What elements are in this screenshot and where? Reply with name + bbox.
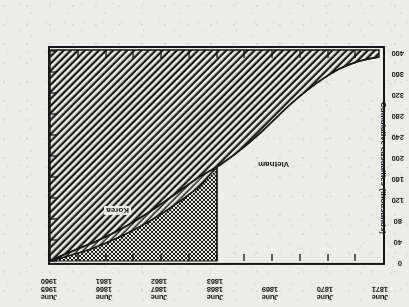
y-tick-label-200: 200 [391, 154, 404, 163]
x-tick-june-7: June [358, 293, 402, 301]
y-tick-label-240: 240 [391, 133, 404, 142]
series-label-vietnam: Vietnam [256, 160, 291, 169]
y-tick-label-400: 400 [391, 49, 404, 58]
x-tick-june-1: June [27, 293, 71, 301]
y-tick-label-0: 0 [398, 259, 402, 268]
x-tick-vietnam-year-3: 1867 [137, 285, 181, 293]
y-tick-label-40: 40 [394, 238, 402, 247]
x-tick-june-4: June [193, 293, 237, 301]
x-tick-label-group-3: June 1867 1862 [137, 276, 181, 301]
y-tick-label-80: 80 [394, 217, 402, 226]
plot-svg [50, 48, 383, 263]
x-tick-korea-year-4: 1863 [193, 276, 237, 284]
x-tick-label-group-1: June 1965 1960 [27, 276, 71, 301]
y-tick-label-360: 360 [391, 70, 404, 79]
x-tick-vietnam-year-6: 1870 [303, 285, 347, 293]
x-tick-label-group-7: June 1871 [358, 285, 402, 301]
x-tick-label-group-5: June 1869 [248, 285, 292, 301]
scanned-chart-page: Vietnam Korea June 1965 1960 June 1866 1… [0, 0, 409, 307]
x-tick-vietnam-year-5: 1869 [248, 285, 292, 293]
y-axis-title: Cumulative casualties (thousands) [379, 102, 388, 234]
x-tick-vietnam-year-4: 1868 [193, 285, 237, 293]
x-tick-vietnam-year-1: 1965 [27, 285, 71, 293]
x-tick-vietnam-year-7: 1871 [358, 285, 402, 293]
plot-area: Vietnam Korea [48, 46, 385, 265]
x-tick-label-group-4: June 1868 1863 [193, 276, 237, 301]
x-tick-label-group-2: June 1866 1861 [82, 276, 126, 301]
y-tick-label-120: 120 [391, 196, 404, 205]
x-tick-june-3: June [137, 293, 181, 301]
x-tick-korea-year-3: 1862 [137, 276, 181, 284]
y-tick-label-320: 320 [391, 91, 404, 100]
x-tick-june-2: June [82, 293, 126, 301]
x-tick-june-6: June [303, 293, 347, 301]
rotated-scan-content: Vietnam Korea June 1965 1960 June 1866 1… [0, 0, 409, 307]
y-tick-label-160: 160 [391, 175, 404, 184]
x-tick-vietnam-year-2: 1866 [82, 285, 126, 293]
x-tick-label-group-6: June 1870 [303, 285, 347, 301]
y-tick-label-280: 280 [391, 112, 404, 121]
x-tick-korea-year-2: 1861 [82, 276, 126, 284]
series-label-korea: Korea [104, 206, 131, 215]
x-tick-korea-year-1: 1960 [27, 276, 71, 284]
x-tick-june-5: June [248, 293, 292, 301]
